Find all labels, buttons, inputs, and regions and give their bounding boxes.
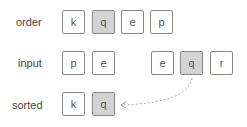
move-arrow: [0, 0, 247, 127]
